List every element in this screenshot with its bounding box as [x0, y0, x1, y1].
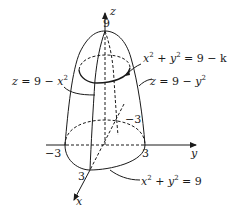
- surface-y-label: z = 9 − y2: [149, 74, 206, 88]
- y-tick-neg3: −3: [45, 147, 61, 160]
- x-axis-label: x: [76, 195, 83, 207]
- level-ellipse-front: [79, 68, 130, 83]
- solid-diagram: z 9 y −3 3 −3 3 x x2 + y2 = 9 − k z = 9 …: [0, 0, 230, 207]
- y-tick-3: 3: [142, 147, 149, 160]
- z-axis-label: z: [109, 5, 116, 18]
- z-tick-9: 9: [103, 17, 110, 30]
- base-curve-label: x2 + y2 = 9: [141, 174, 202, 188]
- level-curve-label: x2 + y2 = 9 − k: [143, 51, 227, 65]
- leader-surface-x: [64, 87, 95, 95]
- solid-outline-left: [65, 31, 105, 145]
- leader-base: [110, 170, 140, 180]
- y-axis-label: y: [190, 147, 198, 160]
- surface-x-label: z = 9 − x2: [11, 74, 68, 88]
- x-tick-3: 3: [78, 170, 85, 183]
- x-tick-neg3: −3: [125, 113, 141, 126]
- x-axis-hidden: [90, 104, 124, 170]
- trace-x-curve: [90, 31, 105, 170]
- base-ellipse-front: [65, 145, 145, 170]
- solid-outline-right: [105, 31, 145, 145]
